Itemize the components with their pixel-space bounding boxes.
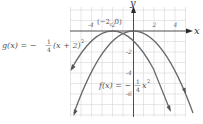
curve-g: [72, 31, 171, 110]
tick-y-neg4: -4: [126, 69, 132, 76]
tick-x-neg4: -4: [88, 21, 94, 28]
curve-g-right-arrow-icon: [167, 105, 172, 112]
x-axis-arrow-icon: [186, 29, 193, 34]
svg-text:4: 4: [47, 46, 51, 53]
svg-text:1: 1: [47, 38, 51, 45]
g-equation-label: g(x) = − 1 4 (x + 2) 2: [2, 38, 84, 53]
svg-text:1: 1: [136, 78, 140, 85]
vertex-label: (−2, 0): [97, 18, 122, 26]
curve-f-right-arrow-icon: [182, 88, 186, 95]
y-axis-label: y: [129, 0, 136, 8]
x-axis-label: x: [194, 25, 200, 36]
svg-text:4: 4: [136, 86, 140, 93]
curve-g-left-arrow-icon: [71, 64, 76, 71]
svg-text:g(x) = −: g(x) = −: [2, 41, 36, 50]
tick-y-neg6: -6: [126, 90, 132, 97]
parabola-graph: x y -4 -2 2 4 -2 -4 -6 (−2, 0) g(x) = − …: [0, 0, 203, 124]
svg-text:2: 2: [81, 38, 84, 44]
tick-x-2: 2: [152, 21, 157, 28]
svg-text:2: 2: [147, 78, 150, 84]
tick-y-neg2: -2: [126, 48, 132, 55]
svg-text:(x + 2): (x + 2): [53, 41, 81, 50]
tick-x-4: 4: [173, 21, 178, 28]
f-equation-label: f(x) = − 1 4 x 2: [98, 78, 150, 93]
svg-text:f(x) = −: f(x) = −: [98, 81, 131, 90]
